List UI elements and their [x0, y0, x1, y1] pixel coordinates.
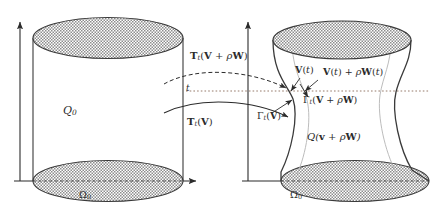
right-base-label: Ω0 — [290, 189, 302, 201]
figure-canvas: Q0 Ω0 Tt(V + ρW) t Tt(V) V(t) V(t) + ρW(… — [0, 0, 430, 217]
label-v-plus-rho-w: V(t) + ρW(t) — [323, 66, 383, 77]
left-cylinder — [33, 18, 183, 203]
label-gamma-v-plus-rho-w: Γt(V + ρW) — [303, 94, 357, 106]
right-body-label: Q(v + ρW) — [307, 131, 361, 142]
map-label-lower: Tt(V) — [187, 116, 213, 128]
time-parameter-label: t — [186, 83, 190, 93]
left-base-label: Ω0 — [79, 189, 91, 201]
left-top-ellipse — [33, 18, 183, 59]
label-gamma-v: Γt(V) — [257, 110, 281, 122]
label-v-of-t: V(t) — [295, 64, 314, 75]
map-label-upper: Tt(V + ρW) — [190, 50, 248, 62]
right-tube — [273, 21, 429, 202]
left-body-label: Q0 — [63, 104, 77, 117]
right-top-ellipse — [273, 21, 411, 59]
